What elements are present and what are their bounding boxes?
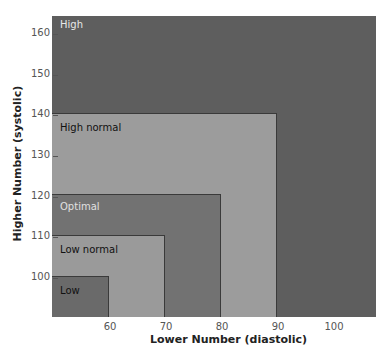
y-tick: 120 [20, 190, 50, 201]
x-tick: 100 [319, 321, 349, 332]
region-low-normal: Low normal Low [52, 235, 165, 317]
region-label-high: High [60, 19, 83, 30]
y-tick: 110 [20, 230, 50, 241]
y-tick: 160 [20, 27, 50, 38]
y-tick: 140 [20, 108, 50, 119]
region-low: Low [52, 276, 109, 317]
y-axis-label: Higher Number (systolic) [11, 92, 24, 242]
x-tick: 90 [263, 321, 293, 332]
x-tick: 70 [151, 321, 181, 332]
region-label-low-normal: Low normal [60, 244, 118, 255]
y-tick: 150 [20, 68, 50, 79]
region-high-normal: High normal Optimal Low normal Low [52, 113, 277, 317]
x-axis-label: Lower Number (diastolic) [150, 333, 307, 346]
region-label-optimal: Optimal [60, 201, 100, 212]
y-tick: 130 [20, 149, 50, 160]
plot-area: High High normal Optimal Low normal Low [52, 16, 376, 317]
region-optimal: Optimal Low normal Low [52, 194, 221, 317]
region-label-low: Low [60, 285, 80, 296]
x-tick: 60 [95, 321, 125, 332]
y-tick: 100 [20, 271, 50, 282]
x-tick: 80 [207, 321, 237, 332]
region-label-high-normal: High normal [60, 122, 121, 133]
